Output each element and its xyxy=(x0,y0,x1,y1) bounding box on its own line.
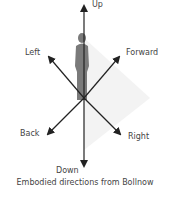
label-forward: Forward xyxy=(126,49,158,57)
label-right: Right xyxy=(128,133,149,141)
label-up: Up xyxy=(92,1,103,9)
label-left: Left xyxy=(25,49,40,57)
label-back: Back xyxy=(20,130,39,138)
diagram-caption: Embodied directions from Bollnow xyxy=(0,178,170,187)
back-arrow xyxy=(48,98,84,134)
label-down: Down xyxy=(56,167,79,175)
